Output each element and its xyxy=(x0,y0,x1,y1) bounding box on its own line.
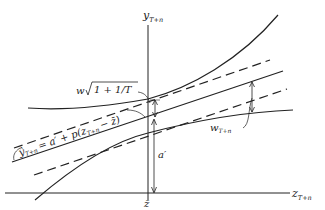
width-label: wT+n xyxy=(210,122,232,134)
svg-text:1 + 1/T: 1 + 1/T xyxy=(94,84,133,95)
y-axis-label: yT+n xyxy=(142,9,163,24)
leader-regression xyxy=(127,110,145,117)
x-axis-label: zT+n xyxy=(291,187,312,202)
regression-equation-label: ŷT+n= a′ + p(zT+n− z̄) xyxy=(16,114,122,159)
svg-text:w: w xyxy=(76,85,85,96)
min-width-label: w 1 + 1/T xyxy=(76,82,138,96)
svg-text:ŷT+n= a′ + p(zT+n− z̄): ŷT+n= a′ + p(zT+n− z̄) xyxy=(16,114,122,159)
prediction-interval-diagram: yT+n zT+n z̄ a′ w 1 + 1/T ŷT+n= a′ + p(z… xyxy=(0,0,325,210)
upper-band-curve xyxy=(28,15,278,109)
x-mean-label: z̄ xyxy=(143,198,150,209)
intercept-label: a′ xyxy=(158,149,167,160)
